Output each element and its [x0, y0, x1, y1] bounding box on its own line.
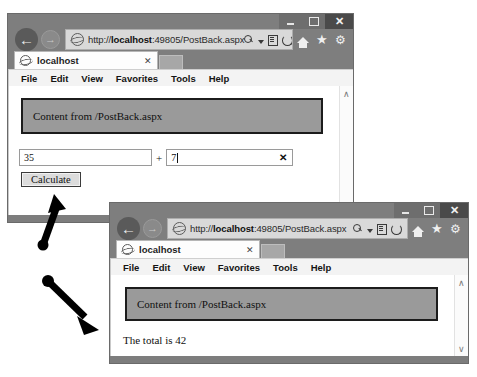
menu-item-view[interactable]: View: [183, 262, 204, 273]
menu-item-file[interactable]: File: [21, 73, 37, 84]
operand-b-input[interactable]: 7 ✕: [166, 149, 293, 166]
forward-icon[interactable]: →: [143, 219, 162, 238]
home-icon[interactable]: [412, 226, 424, 232]
url-prefix: http://: [88, 34, 111, 45]
menu-bar: File Edit View Favorites Tools Help: [110, 258, 468, 275]
tab-title: localhost: [37, 55, 140, 66]
address-bar[interactable]: http://localhost:49805/PostBack.aspx: [167, 218, 408, 239]
gear-icon[interactable]: ⚙: [335, 34, 346, 46]
new-tab-button[interactable]: [261, 244, 285, 258]
clear-input-icon[interactable]: ✕: [279, 152, 292, 163]
scroll-up-icon[interactable]: ∧: [455, 276, 468, 289]
star-icon[interactable]: ★: [431, 222, 443, 235]
tab-localhost[interactable]: localhost ✕: [116, 240, 260, 258]
vertical-scrollbar[interactable]: ∧ ∨: [339, 86, 353, 215]
ie-logo-icon: [173, 222, 186, 235]
search-icon[interactable]: [353, 223, 363, 234]
menu-item-file[interactable]: File: [123, 262, 139, 273]
content-panel-text: Content from /PostBack.aspx: [23, 110, 162, 122]
tab-favicon-icon: [20, 55, 31, 66]
menu-item-edit[interactable]: Edit: [152, 262, 170, 273]
title-bar: ✕ ← → http://localhost:49805/PostBack.as…: [110, 203, 468, 241]
url-host: localhost: [213, 223, 254, 234]
operand-b-value: 7: [167, 152, 176, 163]
home-icon[interactable]: [297, 37, 309, 43]
url-rest: :49805/PostBack.aspx: [152, 34, 245, 45]
url-host: localhost: [111, 34, 152, 45]
scroll-down-icon[interactable]: ∨: [455, 342, 468, 355]
browser-window-postback-result[interactable]: ✕ ← → http://localhost:49805/PostBack.as…: [110, 203, 468, 363]
vertical-scrollbar[interactable]: ∧ ∨: [454, 275, 468, 356]
navigation-bar: ← → http://localhost:49805/PostBack.aspx…: [8, 27, 353, 52]
address-bar-icons: [244, 34, 293, 46]
chevron-down-icon[interactable]: [367, 229, 373, 233]
forward-icon[interactable]: →: [41, 30, 60, 49]
refresh-icon[interactable]: [282, 35, 293, 46]
page-icon[interactable]: [377, 224, 387, 235]
menu-item-view[interactable]: View: [81, 73, 102, 84]
url-prefix: http://: [190, 223, 213, 234]
refresh-icon[interactable]: [391, 224, 402, 235]
title-bar: ✕ ← → http://localhost:49805/PostBack.as…: [8, 14, 353, 52]
back-icon[interactable]: ←: [117, 217, 140, 240]
toolbar-icons: ★ ⚙: [412, 222, 468, 235]
content-panel-text: Content from /PostBack.aspx: [127, 298, 266, 310]
operator-label: +: [156, 152, 162, 164]
chevron-down-icon[interactable]: [258, 40, 264, 44]
page-viewport: Content from /PostBack.aspx The total is…: [110, 275, 468, 356]
tab-strip: localhost ✕: [110, 241, 468, 258]
content-panel: Content from /PostBack.aspx: [21, 98, 323, 134]
tab-favicon-icon: [122, 244, 133, 255]
gear-icon[interactable]: ⚙: [450, 223, 461, 235]
calculate-button[interactable]: Calculate: [21, 172, 81, 187]
tab-title: localhost: [139, 244, 242, 255]
address-bar-icons: [353, 223, 407, 235]
menu-item-favorites[interactable]: Favorites: [218, 262, 260, 273]
menu-item-tools[interactable]: Tools: [171, 73, 196, 84]
new-tab-button[interactable]: [159, 55, 183, 69]
address-bar[interactable]: http://localhost:49805/PostBack.aspx: [65, 29, 293, 50]
menu-item-help[interactable]: Help: [311, 262, 332, 273]
menu-item-favorites[interactable]: Favorites: [116, 73, 158, 84]
text-caret: [177, 153, 178, 163]
page-icon[interactable]: [268, 35, 278, 46]
operand-a-value: 35: [20, 152, 34, 163]
content-panel: Content from /PostBack.aspx: [125, 287, 438, 321]
ie-logo-icon: [71, 33, 84, 46]
calculator-row: 35 + 7 ✕: [19, 149, 353, 166]
menu-item-tools[interactable]: Tools: [273, 262, 298, 273]
operand-a-input[interactable]: 35: [19, 149, 152, 166]
browser-window-postback-form[interactable]: ✕ ← → http://localhost:49805/PostBack.as…: [8, 14, 353, 222]
back-icon[interactable]: ←: [15, 28, 38, 51]
menu-item-help[interactable]: Help: [209, 73, 230, 84]
url-rest: :49805/PostBack.aspx: [254, 223, 347, 234]
address-url: http://localhost:49805/PostBack.aspx: [190, 223, 353, 234]
tab-localhost[interactable]: localhost ✕: [14, 51, 158, 69]
page-viewport: Content from /PostBack.aspx 35 + 7 ✕ Cal…: [8, 86, 353, 215]
address-url: http://localhost:49805/PostBack.aspx: [88, 34, 244, 45]
result-text: The total is 42: [123, 334, 468, 346]
arrow-to-result: [42, 275, 99, 335]
scroll-up-icon[interactable]: ∧: [340, 87, 353, 100]
search-icon[interactable]: [244, 34, 254, 45]
navigation-bar: ← → http://localhost:49805/PostBack.aspx…: [110, 216, 468, 241]
toolbar-icons: ★ ⚙: [297, 33, 353, 46]
menu-item-edit[interactable]: Edit: [50, 73, 68, 84]
menu-bar: File Edit View Favorites Tools Help: [8, 69, 353, 86]
star-icon[interactable]: ★: [316, 33, 328, 46]
tab-close-icon[interactable]: ✕: [246, 245, 254, 255]
tab-close-icon[interactable]: ✕: [144, 56, 152, 66]
tab-strip: localhost ✕: [8, 52, 353, 69]
